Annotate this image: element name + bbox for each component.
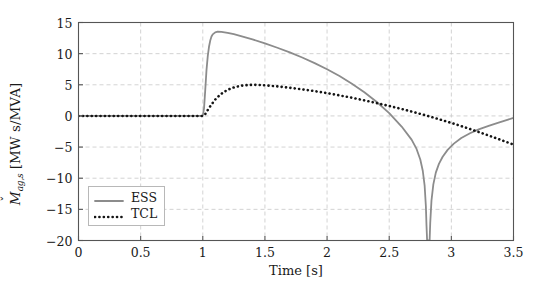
- legend-swatch-ess: [94, 192, 124, 204]
- legend-label: ESS: [131, 192, 157, 205]
- x-tick-label: 2: [323, 245, 331, 260]
- y-tick-label: −20: [46, 233, 72, 248]
- x-tick-label: 0: [75, 245, 83, 260]
- legend-swatch-tcl: [94, 208, 124, 220]
- legend-label: TCL: [131, 208, 157, 221]
- y-tick-label: −10: [46, 171, 72, 186]
- chart-figure: Mag,s [MW s/MVA] −20−15−10−5051015 00.51…: [0, 0, 541, 288]
- x-tick-label: 1.5: [255, 245, 275, 260]
- legend-item-ess: ESS: [94, 190, 157, 206]
- x-tick-label: 3: [447, 245, 455, 260]
- y-tick-label: −5: [54, 140, 72, 155]
- x-tick-label: 2.5: [379, 245, 399, 260]
- legend-item-tcl: TCL: [94, 206, 157, 222]
- x-tick-label: 0.5: [131, 245, 151, 260]
- y-tick-label: 5: [65, 77, 73, 92]
- y-tick-label: 10: [57, 46, 73, 61]
- y-tick-label: 15: [57, 15, 73, 30]
- chart-legend: ESSTCL: [88, 186, 165, 226]
- y-tick-label: −15: [46, 202, 72, 217]
- series-line-tcl: [79, 85, 514, 145]
- x-tick-label: 1: [199, 245, 207, 260]
- x-tick-label: 3.5: [504, 245, 524, 260]
- x-axis-label: Time [s]: [269, 263, 323, 278]
- y-tick-label: 0: [65, 108, 73, 123]
